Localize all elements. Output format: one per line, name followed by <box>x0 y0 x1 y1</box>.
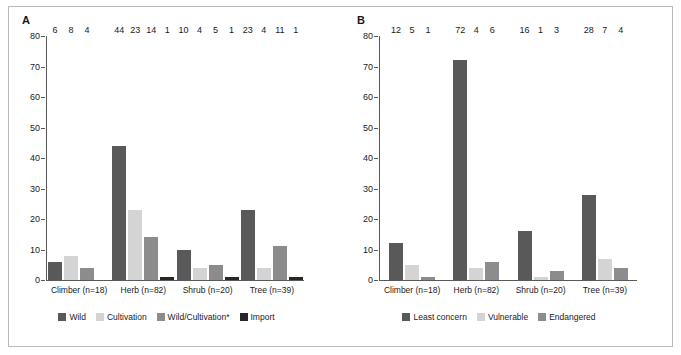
bar-item: 4 <box>614 36 628 280</box>
y-tick-a: 70 <box>16 62 40 72</box>
y-tick-mark-a <box>41 189 45 190</box>
bar-value-label: 4 <box>474 25 479 35</box>
legend-label: Wild <box>69 312 86 322</box>
legend-swatch <box>157 313 165 321</box>
bar-set: 684 <box>48 36 110 280</box>
y-tick-mark-b <box>374 189 378 190</box>
legend-item: Import <box>240 312 275 322</box>
bar-item: 5 <box>405 36 419 280</box>
bar-set: 234111 <box>241 36 303 280</box>
bar: 11 <box>273 246 287 280</box>
legend-label: Wild/Cultivation* <box>168 312 230 322</box>
bar-item: 5 <box>209 36 223 280</box>
y-tick-b: 80 <box>349 31 373 41</box>
x-axis-category-label: Tree (n=39) <box>250 285 294 295</box>
bar: 23 <box>128 210 142 280</box>
bar-item: 23 <box>128 36 142 280</box>
plot-area-a: 684Climber (n=18)4423141Herb (n=82)10451… <box>46 36 304 281</box>
bar-group: 1613Shrub (n=20) <box>509 36 573 280</box>
bar-item: 1 <box>160 36 174 280</box>
y-tick-a: 40 <box>16 153 40 163</box>
legend-item: Least concern <box>402 312 466 322</box>
bar-item: 4 <box>469 36 483 280</box>
y-tick-mark-b <box>374 250 378 251</box>
y-tick-a: 30 <box>16 184 40 194</box>
bar-value-label: 44 <box>114 25 124 35</box>
y-tick-a: 0 <box>16 275 40 285</box>
y-tick-mark-a <box>41 67 45 68</box>
legend-b: Least concernVulnerableEndangered <box>333 312 665 322</box>
y-tick-a: 80 <box>16 31 40 41</box>
y-tick-mark-b <box>374 67 378 68</box>
bar: 4 <box>614 268 628 280</box>
bar-item <box>96 36 110 280</box>
bar-item: 16 <box>518 36 532 280</box>
panel-b: B 1251Climber (n=18)7246Herb (n=82)1613S… <box>333 0 665 341</box>
x-axis-category-label: Tree (n=39) <box>583 285 627 295</box>
y-tick-mark-b <box>374 128 378 129</box>
legend-item: Cultivation <box>96 312 147 322</box>
legend-swatch <box>538 313 546 321</box>
bar-value-label: 6 <box>490 25 495 35</box>
legend-swatch <box>58 313 66 321</box>
bar-value-label: 7 <box>602 25 607 35</box>
bar-item: 44 <box>112 36 126 280</box>
bar: 6 <box>485 262 499 280</box>
y-tick-b: 20 <box>349 214 373 224</box>
bar-item: 7 <box>598 36 612 280</box>
bar-value-label: 14 <box>146 25 156 35</box>
y-tick-b: 70 <box>349 62 373 72</box>
bar-group: 2874Tree (n=39) <box>573 36 637 280</box>
legend-swatch <box>96 313 104 321</box>
bar-item: 12 <box>389 36 403 280</box>
y-tick-mark-a <box>41 36 45 37</box>
y-tick-mark-b <box>374 97 378 98</box>
bar-value-label: 8 <box>69 25 74 35</box>
x-axis-category-label: Climber (n=18) <box>51 285 107 295</box>
legend-label: Least concern <box>413 312 466 322</box>
bar-item: 11 <box>273 36 287 280</box>
x-axis-category-label: Climber (n=18) <box>384 285 440 295</box>
y-tick-b: 30 <box>349 184 373 194</box>
bar-item: 1 <box>289 36 303 280</box>
y-tick-a: 60 <box>16 92 40 102</box>
bar-item: 72 <box>453 36 467 280</box>
y-tick-mark-a <box>41 158 45 159</box>
y-tick-mark-b <box>374 219 378 220</box>
bar: 1 <box>160 277 174 280</box>
legend-item: Wild <box>58 312 86 322</box>
legend-swatch <box>402 313 410 321</box>
y-tick-b: 0 <box>349 275 373 285</box>
bar-value-label: 3 <box>554 25 559 35</box>
x-axis-a <box>46 280 304 281</box>
bar-item: 23 <box>241 36 255 280</box>
bar-value-label: 4 <box>197 25 202 35</box>
y-tick-mark-b <box>374 36 378 37</box>
legend-label: Cultivation <box>107 312 147 322</box>
bar: 5 <box>209 265 223 280</box>
bar-item: 6 <box>485 36 499 280</box>
x-axis-category-label: Herb (n=82) <box>121 285 167 295</box>
bar: 4 <box>257 268 271 280</box>
bar-item: 1 <box>225 36 239 280</box>
bar-value-label: 1 <box>426 25 431 35</box>
panel-a: A 684Climber (n=18)4423141Herb (n=82)104… <box>0 0 333 341</box>
bar: 1 <box>534 277 548 280</box>
bar: 4 <box>193 268 207 280</box>
bar-value-label: 23 <box>130 25 140 35</box>
plot-area-b: 1251Climber (n=18)7246Herb (n=82)1613Shr… <box>379 36 637 281</box>
bar-value-label: 6 <box>53 25 58 35</box>
bar-value-label: 5 <box>213 25 218 35</box>
bar-value-label: 1 <box>538 25 543 35</box>
bar-item: 6 <box>48 36 62 280</box>
bar-item: 4 <box>257 36 271 280</box>
y-tick-b: 50 <box>349 123 373 133</box>
bar-value-label: 12 <box>391 25 401 35</box>
bar: 4 <box>80 268 94 280</box>
bar: 1 <box>421 277 435 280</box>
bar-set: 4423141 <box>112 36 174 280</box>
legend-label: Vulnerable <box>488 312 528 322</box>
bar-value-label: 4 <box>618 25 623 35</box>
bar-group: 4423141Herb (n=82) <box>111 36 175 280</box>
bar-group: 1251Climber (n=18) <box>380 36 444 280</box>
